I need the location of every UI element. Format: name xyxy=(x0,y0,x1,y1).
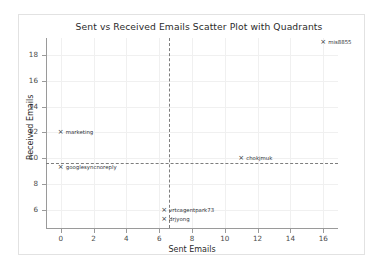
x-tick-mark xyxy=(225,229,226,233)
x-marker-icon: × xyxy=(238,154,244,162)
y-tick-mark xyxy=(42,107,46,108)
y-tick-label: 6 xyxy=(14,206,38,213)
scatter-point-label: chokjmuk xyxy=(246,154,272,162)
x-tick-mark xyxy=(290,229,291,233)
gridline-vertical xyxy=(94,38,95,228)
x-tick-mark xyxy=(61,229,62,233)
y-tick-label: 16 xyxy=(14,77,38,84)
x-tick-mark xyxy=(323,229,324,233)
x-tick-label: 4 xyxy=(116,235,136,242)
gridline-vertical xyxy=(290,38,291,228)
y-tick-label: 8 xyxy=(14,180,38,187)
x-marker-icon: × xyxy=(161,206,167,214)
scatter-point-label: vrtcagentpark73 xyxy=(169,206,214,214)
scatter-point-label: marketing xyxy=(66,128,93,136)
y-tick-mark xyxy=(42,81,46,82)
x-marker-icon: × xyxy=(58,128,64,136)
y-tick-mark xyxy=(42,158,46,159)
gridline-vertical xyxy=(192,38,193,228)
gridline-vertical xyxy=(159,38,160,228)
x-axis-label: Sent Emails xyxy=(46,245,338,254)
y-axis-spine xyxy=(46,38,47,228)
y-tick-mark xyxy=(42,184,46,185)
quadrant-vertical-line xyxy=(169,38,170,228)
gridline-vertical xyxy=(323,38,324,228)
x-marker-icon: × xyxy=(161,215,167,223)
y-tick-mark xyxy=(42,132,46,133)
gridline-vertical xyxy=(225,38,226,228)
x-tick-label: 16 xyxy=(313,235,333,242)
chart-figure: Sent vs Received Emails Scatter Plot wit… xyxy=(0,0,381,270)
y-tick-mark xyxy=(42,55,46,56)
y-tick-mark xyxy=(42,210,46,211)
x-tick-label: 14 xyxy=(280,235,300,242)
x-tick-mark xyxy=(126,229,127,233)
x-tick-mark xyxy=(94,229,95,233)
x-tick-label: 10 xyxy=(215,235,235,242)
scatter-point-label: drjyong xyxy=(169,215,189,223)
scatter-point-label: mis8855 xyxy=(328,38,351,46)
x-tick-mark xyxy=(258,229,259,233)
gridline-vertical xyxy=(126,38,127,228)
x-marker-icon: × xyxy=(320,38,326,46)
x-tick-label: 6 xyxy=(149,235,169,242)
y-axis-label: Received Emails xyxy=(26,95,35,160)
x-tick-label: 12 xyxy=(248,235,268,242)
x-marker-icon: × xyxy=(58,163,64,171)
gridline-vertical xyxy=(258,38,259,228)
x-tick-mark xyxy=(159,229,160,233)
scatter-point-label: googlesyncnoreply xyxy=(66,163,117,171)
chart-title: Sent vs Received Emails Scatter Plot wit… xyxy=(44,21,354,32)
x-tick-label: 8 xyxy=(182,235,202,242)
x-tick-label: 2 xyxy=(84,235,104,242)
x-tick-label: 0 xyxy=(51,235,71,242)
x-tick-mark xyxy=(192,229,193,233)
y-tick-label: 18 xyxy=(14,51,38,58)
